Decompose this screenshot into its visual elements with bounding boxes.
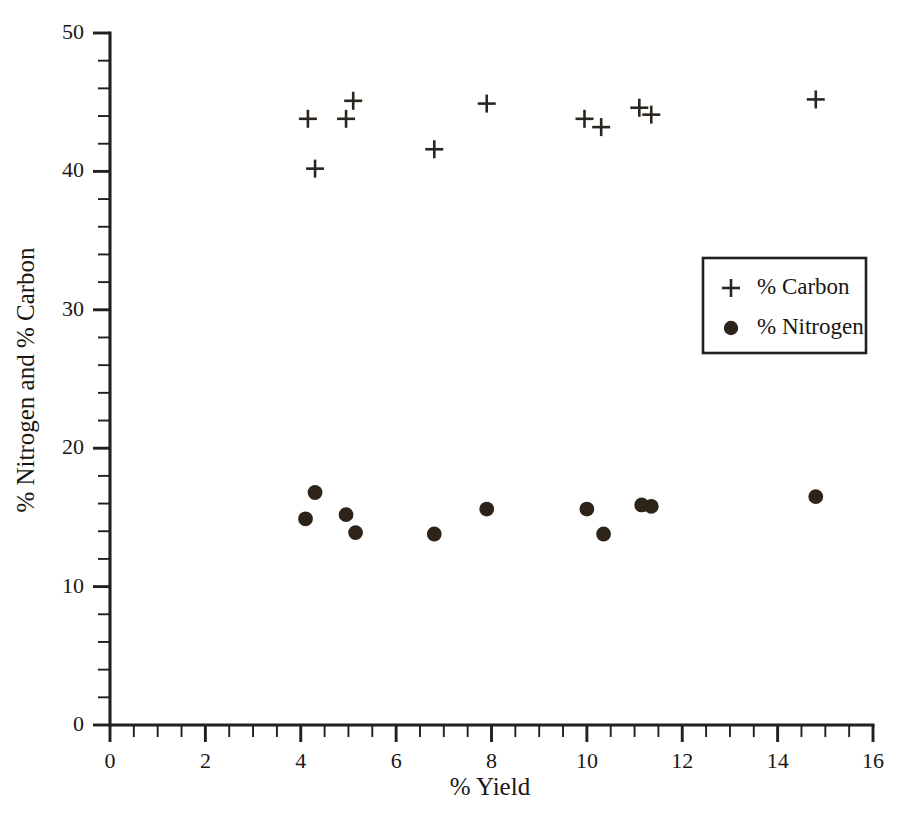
scatter-chart-figure: 01020304050 0246810121416 % Carbon % Nit…	[0, 0, 908, 823]
x-axis-title: % Yield	[450, 773, 531, 800]
data-point-carbon	[344, 92, 362, 110]
x-tick-label: 16	[862, 748, 884, 773]
data-point-nitrogen	[579, 502, 594, 517]
x-tick-label: 2	[200, 748, 211, 773]
axes	[110, 33, 873, 725]
series-carbon-points	[299, 90, 825, 177]
x-tick-label: 8	[486, 748, 497, 773]
x-tick-label: 4	[295, 748, 306, 773]
x-tick-label: 10	[576, 748, 598, 773]
x-tick-label: 6	[391, 748, 402, 773]
data-point-carbon	[575, 110, 593, 128]
data-point-nitrogen	[339, 507, 354, 522]
data-point-nitrogen	[298, 511, 313, 526]
y-tick-label: 0	[73, 711, 84, 736]
y-axis-ticks	[93, 33, 110, 725]
data-point-carbon	[306, 160, 324, 178]
legend-label-nitrogen: % Nitrogen	[757, 314, 864, 339]
y-tick-label: 30	[62, 296, 84, 321]
legend-label-carbon: % Carbon	[757, 274, 850, 299]
data-point-nitrogen	[644, 499, 659, 514]
y-axis-title: % Nitrogen and % Carbon	[12, 247, 39, 513]
plot-canvas: 01020304050 0246810121416 % Carbon % Nit…	[0, 0, 908, 823]
data-point-carbon	[425, 140, 443, 158]
data-point-nitrogen	[308, 485, 323, 500]
x-axis-tick-labels: 0246810121416	[105, 748, 885, 773]
data-point-carbon	[592, 118, 610, 136]
data-point-carbon	[807, 90, 825, 108]
legend: % Carbon % Nitrogen	[703, 258, 866, 353]
data-point-nitrogen	[808, 489, 823, 504]
x-axis-ticks	[110, 725, 873, 742]
data-point-nitrogen	[596, 527, 611, 542]
x-tick-label: 0	[105, 748, 116, 773]
x-tick-label: 14	[767, 748, 789, 773]
data-point-nitrogen	[479, 502, 494, 517]
data-point-nitrogen	[427, 527, 442, 542]
data-point-carbon	[337, 110, 355, 128]
y-tick-label: 50	[62, 19, 84, 44]
data-point-carbon	[299, 110, 317, 128]
series-nitrogen-points	[298, 485, 823, 541]
data-point-nitrogen	[348, 525, 363, 540]
dot-icon	[724, 321, 738, 335]
y-axis-tick-labels: 01020304050	[62, 19, 84, 736]
y-tick-label: 10	[62, 573, 84, 598]
y-tick-label: 20	[62, 434, 84, 459]
x-tick-label: 12	[671, 748, 693, 773]
y-tick-label: 40	[62, 157, 84, 182]
data-point-carbon	[478, 95, 496, 113]
